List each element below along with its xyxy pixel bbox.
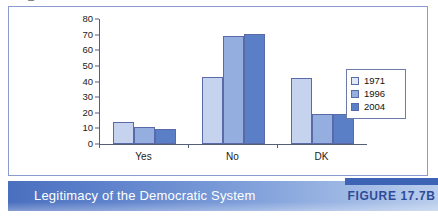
page-bottom-spacer [0,212,438,223]
bar-yes-1971 [113,122,134,144]
bar-yes-1996 [134,127,155,144]
bar-no-1996 [223,36,244,144]
legend-swatch-icon-1996 [351,90,359,98]
bar-yes-2004 [155,129,176,144]
y-tick-label: 60 [59,46,93,56]
legend-item-1971: 1971 [351,75,400,87]
figure-container: Percentage 01020304050607080 YesNoDK 197… [0,0,438,223]
legend-label: 1971 [364,76,385,86]
x-axis-label-dk: DK [292,151,352,162]
y-tick-label: 40 [59,77,93,87]
y-axis-ticks: 01020304050607080 [55,19,99,156]
y-tick-label: 20 [59,108,93,118]
y-tick-label: 80 [59,14,93,24]
x-tick-mark [99,144,100,148]
bar-group-yes [113,19,176,144]
x-axis-label-no: No [203,151,263,162]
figure-tag-label: FIGURE 17.7B [345,189,438,203]
bar-group-no [202,19,265,144]
y-tick-label: 70 [59,30,93,40]
y-axis-label: Percentage [25,0,37,31]
figure-tag-bar [345,178,438,185]
bar-dk-1971 [291,78,312,144]
figure-tag: FIGURE 17.7B [345,178,438,211]
y-tick-label: 0 [59,139,93,149]
bar-no-2004 [244,34,265,144]
bar-group-dk [291,19,354,144]
legend-swatch-icon-1971 [351,77,359,85]
x-tick-mark [188,144,189,148]
legend-label: 2004 [364,102,385,112]
bar-dk-1996 [312,114,333,144]
chart-legend: 197119962004 [346,69,406,119]
plot-area: 01020304050607080 YesNoDK [55,19,367,156]
figure-caption: Legitimacy of the Democratic System [34,188,256,203]
y-tick-label: 10 [59,124,93,134]
x-axis-ticks: YesNoDK [99,144,367,166]
bars-layer [100,19,367,144]
legend-swatch-icon-2004 [351,103,359,111]
chart-panel: Percentage 01020304050607080 YesNoDK 197… [8,6,428,176]
y-tick-label: 50 [59,61,93,71]
x-axis-label-yes: Yes [114,151,174,162]
y-axis-label-container: Percentage [27,17,41,137]
x-tick-mark [277,144,278,148]
legend-item-2004: 2004 [351,101,400,113]
legend-item-1996: 1996 [351,88,400,100]
bar-no-1971 [202,77,223,144]
y-tick-label: 30 [59,92,93,102]
legend-label: 1996 [364,89,385,99]
